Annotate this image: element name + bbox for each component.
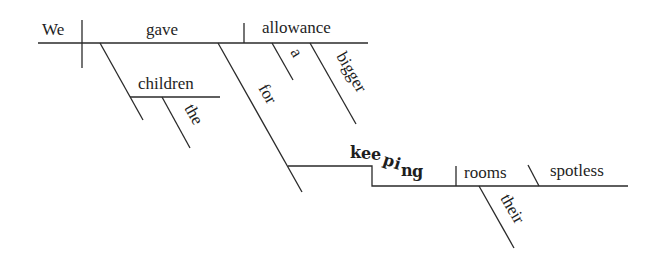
word-verb: gave [146,20,178,39]
preposition-diagonal [218,43,302,192]
word-subject: We [42,20,64,39]
word-modifier-their: their [497,191,529,228]
word-preposition: for [255,81,282,108]
gerund-letter: e [361,144,371,163]
gerund-letter: g [412,162,423,181]
modifier-line-a [272,43,293,80]
complement-divider [528,165,539,186]
indirect-object-diagonal [100,43,143,120]
sentence-diagram: We gave allowance a bigger children the … [0,0,659,262]
word-object-complement: spotless [550,161,604,180]
word-direct-object: allowance [262,18,331,37]
word-modifier-bigger: bigger [333,49,371,96]
word-gerund: k e e p i n g [350,143,423,181]
modifier-line-the [162,97,190,148]
gerund-letter: e [371,145,381,164]
word-modifier-a: a [287,45,307,61]
word-modifier-the: the [181,101,208,128]
word-gerund-object: rooms [464,163,507,182]
word-indirect-object: children [138,74,194,93]
